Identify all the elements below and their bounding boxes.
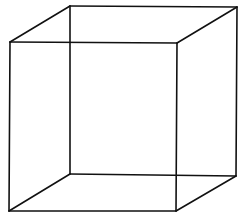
cube-edge-front_bl-back_bl bbox=[9, 174, 70, 211]
cube-edge-front_br-back_br bbox=[176, 176, 236, 211]
cube-edge-back_br-back_bl bbox=[70, 174, 236, 176]
wireframe-cube bbox=[0, 0, 243, 222]
cube-edge-front_tl-back_tl bbox=[10, 6, 70, 42]
cube-edge-front_bl-front_tl bbox=[9, 42, 10, 211]
cube-edge-back_tr-back_br bbox=[236, 7, 237, 176]
cube-edge-front_tr-back_tr bbox=[177, 7, 237, 43]
cube-edge-back_tl-back_tr bbox=[70, 6, 237, 7]
cube-edge-front_tl-front_tr bbox=[10, 42, 177, 43]
cube-edge-front_tr-front_br bbox=[176, 43, 177, 211]
